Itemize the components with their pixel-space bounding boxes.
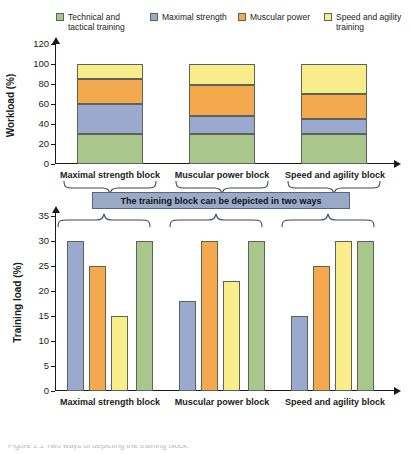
bar-maximal-strength-block-speed-agility [111,316,128,391]
legend-item-muscular-power: Muscular power [238,12,320,22]
bottom-category-label-muscular-power-block: Muscular power block [167,397,277,407]
segment-speed-agility [189,64,255,85]
bar-muscular-power-block-technical-tactical [248,241,265,391]
bottom-y-axis-arrow-icon [52,206,60,213]
bar-maximal-strength-block-muscular-power [89,266,106,391]
top-ytick-0: 0 [44,159,49,169]
bar-maximal-strength-block-technical-tactical [136,241,153,391]
bottom-ytick-25: 25 [38,261,49,271]
top-category-label-muscular-power-block: Muscular power block [167,170,277,180]
segment-maximal-strength [77,104,143,134]
bottom-category-label-maximal-strength-block: Maximal strength block [55,397,165,407]
bottom-ytick-20: 20 [38,286,49,296]
legend-swatch-maximal-strength-icon [150,13,158,21]
segment-muscular-power [301,94,367,119]
top-ytick-80: 80 [38,79,49,89]
top-category-label-speed-agility-block: Speed and agility block [279,170,391,180]
segment-speed-agility [301,64,367,94]
top-x-axis-arrow-icon [394,160,401,168]
bar-muscular-power-block-maximal-strength [179,301,196,391]
legend-label-technical-tactical: Technical and tactical training [68,12,140,32]
bar-speed-agility-block-muscular-power [313,266,330,391]
bottom-ytick-10: 10 [38,336,49,346]
figure-caption: Figure 1.1 Two ways of depicting the tra… [8,445,238,454]
segment-technical-tactical [301,134,367,164]
bar-speed-agility-block-technical-tactical [357,241,374,391]
bar-muscular-power-block-speed-agility [223,281,240,391]
segment-technical-tactical [189,134,255,164]
brace-up-maximal-strength [56,213,152,227]
bar-muscular-power-block-muscular-power [201,241,218,391]
stacked-bar-maximal-strength-block [77,64,143,164]
bar-maximal-strength-block-maximal-strength [67,241,84,391]
legend-item-speed-agility: Speed and agility training [324,12,404,32]
legend-label-maximal-strength: Maximal strength [162,12,227,22]
bottom-ytick-30: 30 [38,236,49,246]
stacked-bar-speed-agility-block [301,64,367,164]
segment-maximal-strength [301,119,367,134]
legend-item-technical-tactical: Technical and tactical training [56,12,140,32]
figure-training-blocks: Technical and tactical training Maximal … [0,0,410,454]
top-y-axis-arrow-icon [52,37,60,44]
bar-speed-agility-block-speed-agility [335,241,352,391]
bottom-y-axis-line [55,213,56,391]
segment-muscular-power [189,85,255,116]
top-y-axis-line [55,44,56,164]
segment-muscular-power [77,79,143,104]
brace-up-speed-agility [280,213,376,227]
legend-item-maximal-strength: Maximal strength [150,12,234,22]
legend-label-speed-agility: Speed and agility training [336,12,404,32]
top-ytick-100: 100 [33,59,49,69]
bottom-ytick-35: 35 [38,211,49,221]
bottom-ytick-15: 15 [38,311,49,321]
figure-caption-text: Figure 1.1 Two ways of depicting the tra… [8,445,238,450]
top-ytick-20: 20 [38,139,49,149]
top-ytick-120: 120 [33,39,49,49]
segment-maximal-strength [189,116,255,134]
grouped-bar-chart: Training load (%) 0 5 10 15 20 25 30 35 [0,205,410,420]
bottom-y-axis-title: Training load (%) [12,260,23,346]
bottom-ytick-0: 0 [44,386,49,396]
legend-swatch-muscular-power-icon [238,13,246,21]
brace-up-muscular-power [168,213,264,227]
top-ytick-60: 60 [38,99,49,109]
chart-legend: Technical and tactical training Maximal … [56,12,404,42]
top-ytick-40: 40 [38,119,49,129]
legend-swatch-speed-agility-icon [324,13,332,21]
callout-banner-text: The training block can be depicted in tw… [120,196,321,206]
segment-technical-tactical [77,134,143,164]
segment-speed-agility [77,64,143,79]
top-y-axis-title: Workload (%) [5,71,16,141]
bottom-x-axis-arrow-icon [394,387,401,395]
bar-speed-agility-block-maximal-strength [291,316,308,391]
bottom-ytick-5: 5 [44,361,49,371]
top-category-label-maximal-strength-block: Maximal strength block [55,170,165,180]
bottom-category-label-speed-agility-block: Speed and agility block [279,397,391,407]
legend-label-muscular-power: Muscular power [250,12,310,22]
legend-swatch-technical-tactical-icon [56,13,64,21]
stacked-bar-chart: Workload (%) 0 20 40 60 80 100 120 [0,42,410,192]
stacked-bar-muscular-power-block [189,64,255,164]
